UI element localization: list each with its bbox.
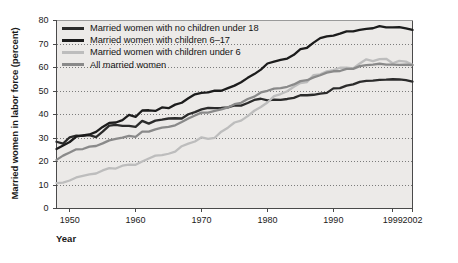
legend-swatch-1: [62, 39, 84, 42]
chart-legend: Married women with no children under 18M…: [62, 22, 362, 71]
y-tick-label-20: 20: [27, 157, 49, 166]
chart-figure: Married women in labor force (percent) Y…: [0, 0, 458, 263]
legend-swatch-0: [62, 27, 84, 30]
y-tick-label-30: 30: [27, 134, 49, 143]
x-tick-label-1950: 1950: [53, 216, 87, 225]
legend-item-2: Married women with children under 6: [62, 46, 362, 58]
legend-label-2: Married women with children under 6: [90, 47, 241, 57]
x-tick-label-1990: 1990: [316, 216, 350, 225]
legend-swatch-2: [62, 51, 84, 54]
legend-item-1: Married women with children 6–17: [62, 34, 362, 46]
legend-item-0: Married women with no children under 18: [62, 22, 362, 34]
x-tick-label-2002: 2002: [396, 216, 430, 225]
y-tick-label-40: 40: [27, 110, 49, 119]
y-axis-title: Married women in labor force (percent): [9, 14, 20, 214]
x-tick-label-1980: 1980: [250, 216, 284, 225]
legend-label-0: Married women with no children under 18: [90, 23, 259, 33]
legend-item-3: All married women: [62, 59, 362, 71]
y-tick-label-70: 70: [27, 40, 49, 49]
x-tick-label-1960: 1960: [119, 216, 153, 225]
y-tick-label-10: 10: [27, 181, 49, 190]
legend-label-3: All married women: [90, 60, 166, 70]
y-tick-label-50: 50: [27, 87, 49, 96]
legend-label-1: Married women with children 6–17: [90, 35, 230, 45]
y-tick-label-80: 80: [27, 16, 49, 25]
legend-swatch-3: [62, 63, 84, 66]
y-tick-label-0: 0: [27, 204, 49, 213]
x-tick-label-1970: 1970: [185, 216, 219, 225]
y-tick-label-60: 60: [27, 63, 49, 72]
x-axis-title: Year: [56, 233, 76, 244]
